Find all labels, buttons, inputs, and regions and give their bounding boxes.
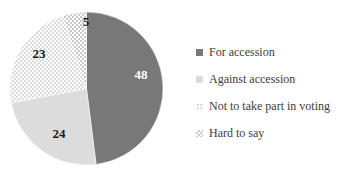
legend-item-for-accession: For accession: [196, 45, 356, 59]
chart-legend: For accession Against accession Not to t…: [196, 45, 356, 153]
legend-marker-solid-light-icon: [196, 76, 203, 83]
legend-marker-solid-dark-icon: [196, 49, 203, 56]
slice-value-against-accession: 24: [53, 126, 67, 141]
legend-item-against-accession: Against accession: [196, 72, 356, 86]
slice-value-for-accession: 48: [135, 67, 149, 82]
legend-item-hard-to-say: Hard to say: [196, 126, 356, 140]
slice-value-not-take-part: 23: [33, 46, 47, 61]
legend-item-not-take-part: Not to take part in voting: [196, 99, 356, 113]
legend-marker-checker-icon: [196, 130, 203, 137]
legend-label: Against accession: [209, 72, 295, 86]
pie-slice-0: [87, 12, 164, 164]
pie-slices-group: [10, 12, 163, 165]
legend-label: Not to take part in voting: [209, 99, 330, 113]
legend-label: Hard to say: [209, 126, 264, 140]
slice-value-hard-to-say: 5: [83, 14, 90, 29]
legend-label: For accession: [209, 45, 275, 59]
legend-marker-dots-icon: [196, 103, 203, 110]
pie-chart-figure: 48 24 23 5 For accession Against accessi…: [0, 0, 357, 174]
